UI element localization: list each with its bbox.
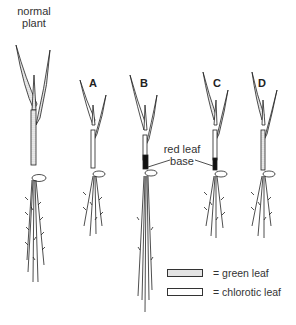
green-leaf-swatch [167,269,203,277]
normal-plant-label-line1: normal [14,5,54,17]
red-leaf-base-line2: base [160,155,204,167]
legend-label-chlorotic: = chlorotic leaf [213,286,281,298]
legend-item-green: = green leaf [167,267,269,279]
plant-b [130,75,157,312]
normal-plant-label: normal plant [14,5,54,29]
red-leaf-base-line1: red leaf [160,143,204,155]
normal-plant [16,45,50,282]
chlorotic-leaf-swatch [167,288,203,296]
legend-item-chlorotic: = chlorotic leaf [167,286,281,298]
legend-label-green: = green leaf [213,267,269,279]
normal-plant-label-line2: plant [14,17,54,29]
plant-c-label: C [213,77,221,89]
plant-a-label: A [89,77,97,89]
red-leaf-base-label: red leaf base [160,143,204,167]
plant-c [203,72,228,238]
plant-d-label: D [258,77,266,89]
plant-a [80,80,106,236]
plant-d [251,72,277,238]
plant-b-label: B [140,77,148,89]
